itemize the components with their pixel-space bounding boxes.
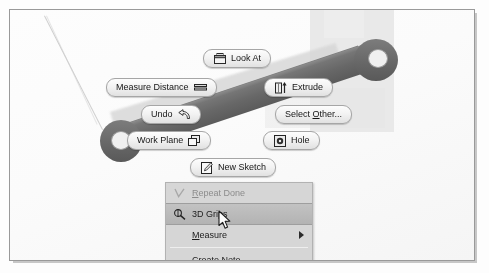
cad-viewport[interactable]: Look At Measure Distance: [10, 10, 474, 260]
marking-menu-label: Work Plane: [137, 136, 183, 145]
marking-menu-label: Hole: [291, 136, 310, 145]
arrow-cursor: [218, 210, 234, 232]
marking-menu-label: New Sketch: [218, 163, 266, 172]
marking-menu-label: Undo: [151, 110, 173, 119]
marking-menu-item-measure-distance[interactable]: Measure Distance: [106, 78, 217, 97]
context-menu-label: Repeat Done: [192, 188, 245, 198]
context-menu-item-measure[interactable]: Measure: [166, 225, 312, 245]
marking-menu-item-look-at[interactable]: Look At: [203, 49, 271, 68]
extrude-icon: [274, 82, 287, 94]
context-menu-item-repeat-done: Repeat Done: [166, 183, 312, 203]
document-page: Look At Measure Distance: [9, 9, 475, 261]
context-menu-separator: [170, 247, 308, 248]
context-menu-label: Create Note: [192, 255, 241, 260]
context-menu-item-create-note[interactable]: Create Note: [166, 250, 312, 260]
undo-icon: [178, 109, 191, 121]
work-plane-icon: [188, 135, 201, 147]
marking-menu-item-undo[interactable]: Undo: [141, 105, 201, 124]
background-construction-line-2: [46, 16, 98, 125]
marking-menu-item-extrude[interactable]: Extrude: [264, 78, 333, 97]
check-icon: [172, 186, 186, 200]
marking-menu-label: Extrude: [292, 83, 323, 92]
marking-menu-item-hole[interactable]: Hole: [263, 131, 320, 150]
context-menu-item-3d-grips[interactable]: 3D Grips: [166, 203, 312, 225]
look-at-icon: [213, 53, 226, 65]
marking-menu-label: Select Other...: [285, 110, 342, 119]
3d-grips-icon: [172, 207, 186, 221]
marking-menu-label: Measure Distance: [116, 83, 189, 92]
context-menu[interactable]: Repeat Done 3D Grips Measure: [165, 182, 313, 260]
part-right-hole: [368, 49, 388, 68]
marking-menu-label: Look At: [231, 54, 261, 63]
marking-menu-item-work-plane[interactable]: Work Plane: [127, 131, 211, 150]
hole-icon: [273, 135, 286, 147]
measure-distance-icon: [194, 82, 207, 94]
marking-menu-item-select-other[interactable]: Select Other...: [275, 105, 352, 124]
marking-menu-item-new-sketch[interactable]: New Sketch: [190, 158, 276, 177]
new-sketch-icon: [200, 162, 213, 174]
submenu-arrow-icon: [299, 231, 304, 239]
screenshot-root: Look At Measure Distance: [0, 0, 489, 273]
